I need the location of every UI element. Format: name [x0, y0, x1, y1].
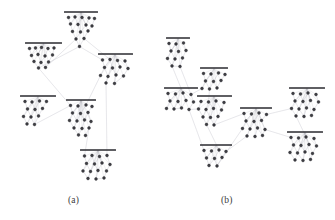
cluster-node: [313, 137, 316, 140]
cluster-node: [85, 24, 88, 27]
cluster-node: [170, 50, 173, 53]
cluster-node: [192, 101, 195, 104]
cluster-node: [109, 163, 112, 166]
cluster-node: [224, 73, 227, 76]
cluster-node: [26, 123, 29, 126]
cluster-node: [34, 108, 37, 111]
cluster-bar: [287, 131, 323, 133]
cluster-node: [174, 93, 177, 96]
cluster-node: [218, 149, 221, 152]
cluster-node: [208, 164, 211, 167]
cluster-node: [289, 151, 292, 154]
cluster-node: [297, 137, 300, 140]
cluster-node: [205, 157, 208, 160]
cluster-node: [223, 101, 226, 104]
cluster-node: [127, 67, 130, 70]
cluster-node: [116, 59, 119, 62]
cluster-node: [69, 23, 72, 26]
cluster-node: [295, 115, 298, 118]
cluster-node: [302, 159, 305, 162]
cluster-bar: [98, 53, 133, 55]
cluster-node: [83, 119, 86, 122]
cluster-node: [95, 178, 98, 181]
cluster-node: [243, 112, 246, 115]
cluster-node: [311, 152, 314, 155]
cluster-node: [69, 104, 72, 107]
cluster-node: [212, 80, 215, 83]
cluster-node: [304, 151, 307, 154]
cluster-node: [91, 154, 94, 157]
cluster-node: [88, 127, 91, 130]
cluster-node: [103, 66, 106, 69]
cluster-node: [105, 82, 108, 85]
cluster-bar: [20, 95, 56, 97]
cluster-node: [111, 67, 114, 70]
cluster-node: [180, 107, 183, 110]
cluster-bar: [25, 42, 62, 44]
cluster-node: [220, 79, 223, 82]
cluster-node: [202, 116, 205, 119]
cluster-node: [203, 149, 206, 152]
cluster-node: [90, 120, 93, 123]
cluster-node: [292, 144, 295, 147]
cluster-node: [33, 60, 36, 63]
cluster-node: [122, 75, 125, 78]
cluster-node: [258, 112, 261, 115]
network-figure: [0, 0, 335, 220]
cluster-node: [119, 66, 122, 69]
cluster-node: [106, 154, 109, 157]
cluster-node: [87, 177, 90, 180]
cluster-node: [302, 100, 305, 103]
cluster-node: [77, 23, 80, 26]
cluster-node: [173, 108, 176, 111]
cluster-node: [210, 150, 213, 153]
cluster-node: [38, 100, 41, 103]
cluster-node: [28, 47, 31, 50]
cluster-node: [182, 42, 185, 45]
cluster-node: [202, 72, 205, 75]
cluster-node: [249, 128, 252, 131]
cluster-node: [76, 120, 79, 123]
cluster-bar: [197, 95, 232, 97]
cluster-bar: [200, 67, 228, 69]
cluster-node: [308, 143, 311, 146]
cluster-bar: [64, 11, 98, 13]
cluster-node: [98, 155, 101, 158]
cluster-node: [71, 30, 74, 33]
cluster-node: [166, 57, 169, 60]
cluster-node: [175, 43, 178, 46]
cluster-node: [113, 82, 116, 85]
cluster-node: [171, 65, 174, 68]
cluster-node: [253, 120, 256, 123]
cluster-node: [292, 92, 295, 95]
cluster-node: [82, 170, 85, 173]
cluster-node: [87, 30, 90, 33]
cluster-node: [216, 87, 219, 90]
cluster-node: [83, 155, 86, 158]
cluster-node: [317, 101, 320, 104]
cluster-node: [208, 88, 211, 91]
cluster-node: [85, 162, 88, 165]
cluster-node: [213, 157, 216, 160]
figure-root: (a) (b): [0, 0, 335, 220]
cluster-node: [200, 100, 203, 103]
cluster-node: [47, 47, 50, 50]
cluster-node: [217, 115, 220, 118]
cluster-node: [67, 16, 70, 19]
cluster-bar: [166, 37, 190, 39]
cluster-node: [88, 17, 91, 20]
cluster-node: [261, 134, 264, 137]
cluster-node: [97, 169, 100, 172]
cluster-node: [215, 100, 218, 103]
cluster-node: [315, 93, 318, 96]
cluster-node: [26, 108, 29, 111]
cluster-node: [41, 107, 44, 110]
cluster-node: [254, 135, 257, 138]
cluster-node: [212, 107, 215, 110]
cluster-node: [84, 134, 87, 137]
cluster-node: [245, 120, 248, 123]
cluster-node: [303, 115, 306, 118]
cluster-node: [294, 159, 297, 162]
cluster-node: [309, 158, 312, 161]
cluster-node: [85, 104, 88, 107]
